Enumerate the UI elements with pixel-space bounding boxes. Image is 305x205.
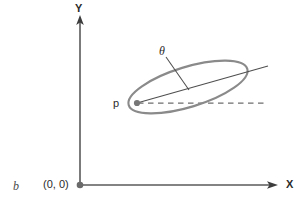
origin-label: (0, 0) xyxy=(43,179,69,190)
figure-part-label: b xyxy=(13,180,19,192)
diagram-canvas xyxy=(0,0,305,205)
theta-angle-label: θ xyxy=(159,45,165,57)
figure-container: Y X (0, 0) p θ b xyxy=(0,0,305,205)
point-p-label: p xyxy=(113,98,119,109)
ellipse-group xyxy=(123,50,253,125)
tilted-ellipse xyxy=(123,50,253,125)
x-axis-label: X xyxy=(286,179,293,190)
origin-dot xyxy=(77,182,84,189)
point-p-dot xyxy=(134,100,140,106)
y-axis-label: Y xyxy=(75,3,82,14)
major-axis-ray xyxy=(137,66,268,103)
axis-group xyxy=(76,15,278,189)
theta-leader-line xyxy=(166,57,189,90)
